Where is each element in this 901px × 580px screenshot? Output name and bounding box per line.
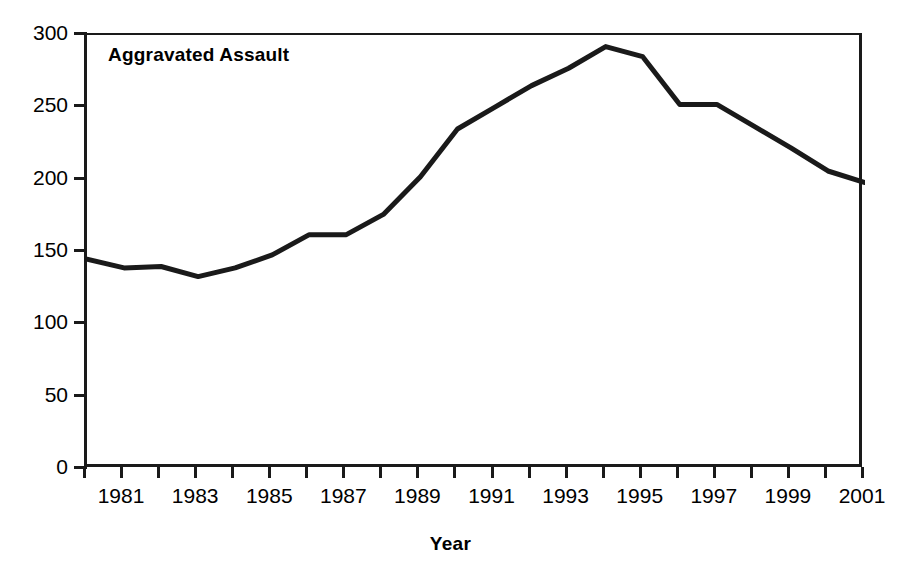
x-axis-tick-mark (639, 467, 642, 478)
y-axis-tick-label: 300 (8, 22, 68, 43)
y-axis-tick-label: 250 (8, 94, 68, 115)
x-axis-tick-mark (861, 467, 864, 478)
x-axis-tick-mark (713, 467, 716, 478)
chart-figure: 050100150200250300 Aggravated Assault Ye… (0, 0, 901, 580)
x-axis-tick-mark (83, 467, 86, 478)
y-axis-tick-label: 200 (8, 167, 68, 188)
y-axis-tick-mark (74, 32, 87, 35)
x-axis-tick-mark (824, 467, 827, 478)
data-line-series (87, 35, 865, 469)
x-axis-tick-mark (528, 467, 531, 478)
y-axis-tick-label: 0 (8, 456, 68, 477)
x-axis-title: Year (0, 533, 901, 555)
y-axis-tick-mark (74, 104, 87, 107)
x-axis-tick-mark (565, 467, 568, 478)
x-axis-tick-mark (231, 467, 234, 478)
x-axis-tick-label: 2001 (817, 485, 901, 507)
y-axis-tick-mark (74, 177, 87, 180)
x-axis-tick-mark (268, 467, 271, 478)
x-axis-tick-mark (602, 467, 605, 478)
x-axis-tick-mark (379, 467, 382, 478)
y-axis-tick-mark (74, 249, 87, 252)
y-axis-tick-mark (74, 394, 87, 397)
x-axis-tick-mark (416, 467, 419, 478)
plot-area (84, 33, 862, 467)
y-axis-tick-label: 50 (8, 384, 68, 405)
x-axis-tick-mark (787, 467, 790, 478)
x-axis-tick-mark (194, 467, 197, 478)
y-axis-tick-label: 100 (8, 311, 68, 332)
x-axis-tick-mark (676, 467, 679, 478)
y-axis-tick-label: 150 (8, 239, 68, 260)
x-axis-tick-mark (305, 467, 308, 478)
x-axis-tick-mark (453, 467, 456, 478)
series-label: Aggravated Assault (108, 44, 289, 66)
x-axis-tick-mark (491, 467, 494, 478)
x-axis-tick-mark (750, 467, 753, 478)
x-axis-tick-mark (157, 467, 160, 478)
y-axis: 050100150200250300 (0, 0, 68, 580)
x-axis-tick-mark (120, 467, 123, 478)
x-axis-tick-mark (342, 467, 345, 478)
y-axis-tick-mark (74, 321, 87, 324)
